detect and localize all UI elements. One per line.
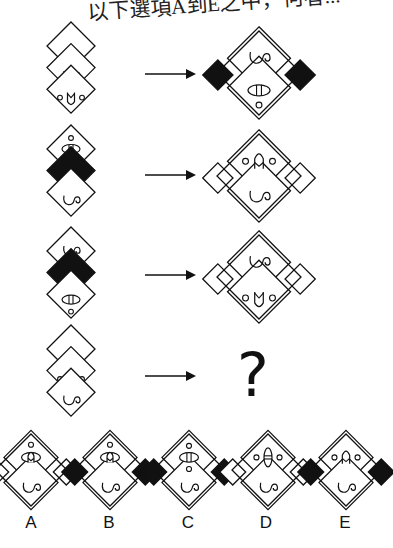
option-label-d[interactable]: D	[251, 513, 281, 533]
arrow-icon	[145, 371, 196, 381]
arrow-icon	[145, 69, 196, 79]
side-square-right	[285, 163, 315, 193]
output-figure	[203, 130, 316, 222]
dot-icon	[107, 442, 112, 447]
option-label-e[interactable]: E	[330, 513, 360, 533]
dot-icon	[28, 442, 33, 447]
option-label-c[interactable]: C	[173, 513, 203, 533]
mouth-icon	[255, 292, 264, 307]
input-stack	[47, 125, 95, 216]
input-stack	[47, 22, 95, 113]
dot-icon	[186, 466, 191, 471]
dot-icon	[80, 95, 85, 100]
arrow-icon	[145, 170, 196, 180]
side-square-left	[203, 264, 233, 294]
puzzle-canvas	[0, 0, 393, 548]
dot-icon	[186, 443, 191, 448]
eye-icon	[62, 295, 80, 304]
dot-icon	[69, 309, 74, 314]
puzzle-row-2	[47, 125, 315, 222]
mouth-icon	[68, 93, 75, 105]
option-label-a[interactable]: A	[16, 513, 46, 533]
dot-icon	[270, 295, 276, 301]
output-figure	[203, 27, 316, 119]
vertical-eye-icon	[264, 448, 272, 467]
eye-icon	[180, 453, 199, 462]
input-stack	[47, 325, 95, 416]
dot-icon	[69, 136, 74, 141]
dot-icon	[277, 455, 282, 460]
puzzle-row-1	[47, 22, 315, 119]
side-square-right	[285, 264, 315, 294]
arch-icon	[342, 451, 349, 464]
dot-icon	[270, 158, 276, 164]
dot-icon	[256, 102, 262, 108]
dot-icon	[58, 95, 63, 100]
arch-icon	[28, 452, 34, 462]
puzzle-row-3	[47, 227, 315, 323]
eye-icon	[248, 85, 270, 96]
dot-icon	[243, 295, 249, 301]
option-label-b[interactable]: B	[94, 513, 124, 533]
puzzle-row-4	[47, 325, 196, 416]
output-figure	[203, 231, 316, 323]
side-square-right	[285, 60, 315, 90]
dot-icon	[254, 455, 259, 460]
input-stack	[47, 227, 95, 318]
option-figure-e[interactable]	[298, 430, 393, 509]
dot-icon	[355, 455, 360, 460]
arch-icon	[255, 154, 264, 169]
arch-icon	[107, 452, 113, 462]
arrow-icon	[145, 270, 196, 280]
dot-icon	[243, 158, 249, 164]
side-square-left	[203, 60, 233, 90]
side-square-left	[203, 163, 233, 193]
dot-icon	[332, 455, 337, 460]
question-mark: ?	[237, 345, 269, 405]
